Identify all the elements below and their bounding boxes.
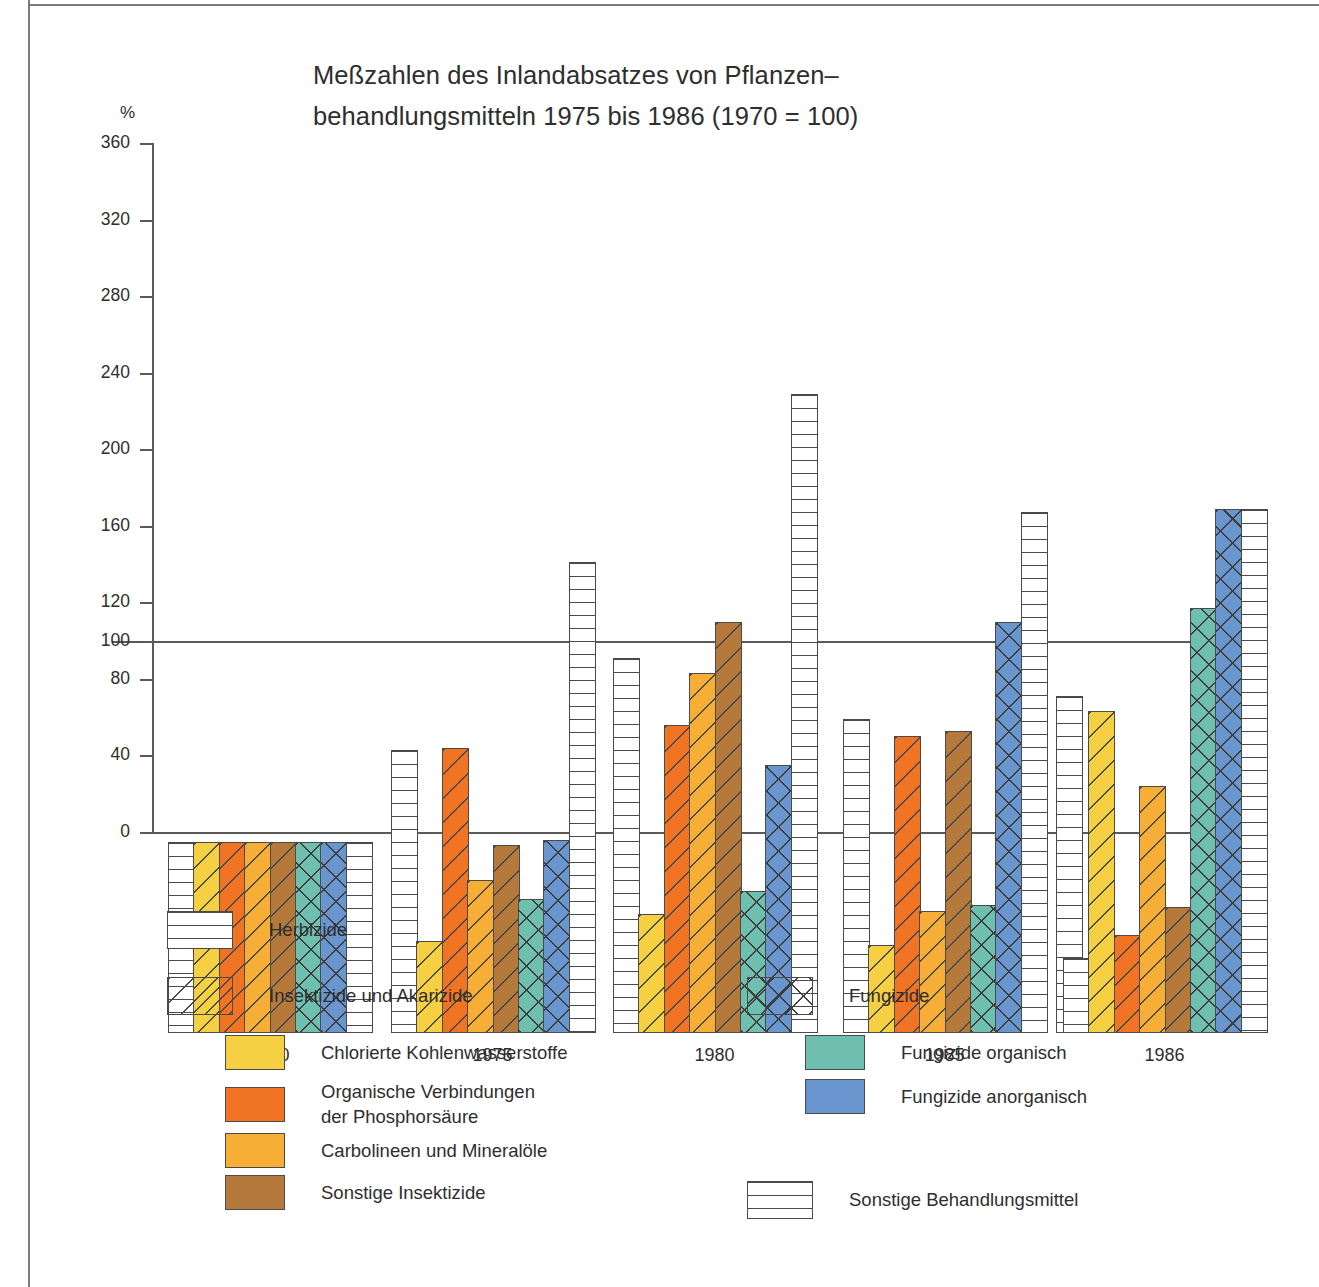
chart-legend: HerbizideInsektizide und AkarizideChlori… xyxy=(0,895,1319,1225)
legend-label-line: Sonstige Insektizide xyxy=(321,1181,486,1205)
legend-item: Chlorierte Kohlenwasserstoffe xyxy=(225,1035,567,1070)
legend-swatch xyxy=(225,1175,285,1210)
legend-item: Carbolineen und Mineralöle xyxy=(225,1133,547,1168)
y-tick-label: 240 xyxy=(40,364,130,382)
legend-label-line: Herbizide xyxy=(269,918,347,942)
legend-label-line: der Phosphorsäure xyxy=(321,1104,535,1129)
legend-label: Fungizide organisch xyxy=(901,1041,1067,1065)
y-tick-mark xyxy=(140,832,154,834)
y-tick-label: 40 xyxy=(40,746,130,764)
legend-label-line: Chlorierte Kohlenwasserstoffe xyxy=(321,1041,567,1065)
legend-label-line: Sonstige Behandlungsmittel xyxy=(849,1188,1078,1212)
legend-label-line: Fungizide xyxy=(849,984,929,1008)
legend-swatch xyxy=(167,977,233,1015)
legend-item: Sonstige Insektizide xyxy=(225,1175,486,1210)
legend-swatch xyxy=(225,1087,285,1122)
y-tick-mark xyxy=(140,679,154,681)
y-axis-line xyxy=(152,144,154,833)
legend-label: Fungizide xyxy=(849,984,929,1008)
legend-label-line: Fungizide organisch xyxy=(901,1041,1067,1065)
legend-swatch xyxy=(805,1035,865,1070)
chart-page: Meßzahlen des Inlandabsatzes von Pflanze… xyxy=(0,0,1319,1287)
legend-label: Sonstige Behandlungsmittel xyxy=(849,1188,1078,1212)
y-tick-label: 320 xyxy=(40,211,130,229)
legend-item: Organische Verbindungender Phosphorsäure xyxy=(225,1079,535,1129)
legend-label-line: Fungizide anorganisch xyxy=(901,1085,1087,1109)
legend-swatch xyxy=(167,911,233,949)
legend-label: Herbizide xyxy=(269,918,347,942)
legend-swatch xyxy=(805,1079,865,1114)
legend-label-line: Insektizide und Akarizide xyxy=(269,984,473,1008)
legend-item: Fungizide xyxy=(747,977,929,1015)
y-tick-mark xyxy=(140,220,154,222)
y-tick-label: 80 xyxy=(40,670,130,688)
legend-swatch xyxy=(225,1035,285,1070)
legend-label: Insektizide und Akarizide xyxy=(269,984,473,1008)
y-tick-label: 200 xyxy=(40,440,130,458)
legend-label: Sonstige Insektizide xyxy=(321,1181,486,1205)
y-tick-label: 120 xyxy=(40,593,130,611)
y-tick-label: 0 xyxy=(40,823,130,841)
legend-label-line: Carbolineen und Mineralöle xyxy=(321,1139,547,1163)
legend-label: Fungizide anorganisch xyxy=(901,1085,1087,1109)
legend-swatch xyxy=(225,1133,285,1168)
legend-label: Carbolineen und Mineralöle xyxy=(321,1139,547,1163)
y-tick-mark xyxy=(140,449,154,451)
reference-line-100 xyxy=(112,641,1252,643)
y-tick-label: 360 xyxy=(40,134,130,152)
legend-item: Fungizide organisch xyxy=(805,1035,1067,1070)
legend-label-line: Organische Verbindungen xyxy=(321,1079,535,1104)
y-tick-mark xyxy=(140,373,154,375)
legend-swatch xyxy=(747,1181,813,1219)
plot-area: 04080100120160200240280320360 1970197519… xyxy=(0,0,1319,900)
legend-label: Organische Verbindungender Phosphorsäure xyxy=(321,1079,535,1129)
y-tick-label: 100 xyxy=(40,632,130,650)
legend-item: Fungizide anorganisch xyxy=(805,1079,1087,1114)
y-tick-mark xyxy=(140,755,154,757)
y-tick-mark xyxy=(140,526,154,528)
y-tick-mark xyxy=(140,296,154,298)
legend-item: Herbizide xyxy=(167,911,347,949)
legend-item: Insektizide und Akarizide xyxy=(167,977,473,1015)
y-tick-label: 160 xyxy=(40,517,130,535)
legend-swatch xyxy=(747,977,813,1015)
legend-item: Sonstige Behandlungsmittel xyxy=(747,1181,1078,1219)
y-tick-mark xyxy=(140,143,154,145)
legend-label: Chlorierte Kohlenwasserstoffe xyxy=(321,1041,567,1065)
y-tick-label: 280 xyxy=(40,287,130,305)
y-tick-mark xyxy=(140,602,154,604)
